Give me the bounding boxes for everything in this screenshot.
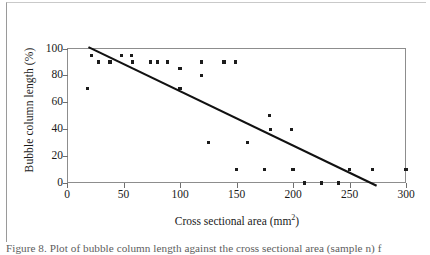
figure-caption: Figure 8. Plot of bubble column length a… [6, 244, 426, 254]
x-axis-title-text: Cross sectional area (mm [175, 215, 292, 227]
figure-page: Bubble column length (%) 020406080100 05… [0, 0, 430, 255]
y-tick-mark [63, 129, 68, 130]
x-axis-title: Cross sectional area (mm2) [67, 213, 407, 227]
y-tick-mark [63, 102, 68, 103]
y-tick-mark [63, 75, 68, 76]
y-tick-mark [63, 183, 68, 184]
x-axis-title-suffix: ) [295, 215, 299, 227]
trendline [0, 0, 430, 243]
scatter-chart: Bubble column length (%) 020406080100 05… [0, 0, 430, 243]
y-tick-mark [63, 156, 68, 157]
y-tick-mark [63, 49, 68, 50]
figure-caption-clip: Figure 8. Plot of bubble column length a… [6, 244, 426, 255]
